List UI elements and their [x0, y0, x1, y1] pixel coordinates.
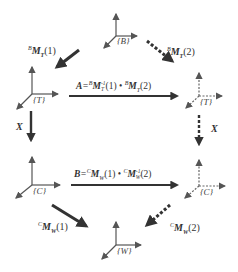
frame-t-solid-label: {T} — [33, 96, 45, 105]
label-bmt1: BMT(1) — [28, 45, 56, 58]
eq-b-t1-base: M — [91, 169, 99, 179]
eq-b-t2-base: M — [127, 169, 135, 179]
equation-a: A=BM-1T(1) • BMT(2) — [76, 80, 151, 93]
eq-a-t1-base: M — [92, 81, 100, 91]
label-cmw2: CMW(2) — [170, 222, 200, 235]
frame-w-label: {W} — [117, 247, 132, 256]
cmw2-base: M — [174, 222, 183, 233]
label-x-right: X — [211, 124, 218, 134]
bmt2-base: M — [171, 46, 180, 57]
eq-a-dot: • — [119, 81, 122, 91]
arrow-bmt1 — [57, 50, 79, 67]
eq-a-t2-arg: (2) — [140, 81, 151, 91]
frame-t-dotted-label: {T} — [200, 98, 212, 107]
frame-c-dotted-label: {C} — [200, 188, 213, 197]
bmt1-arg: (1) — [44, 45, 56, 56]
eq-b-dot: • — [118, 169, 121, 179]
cmw1-arg: (1) — [56, 221, 68, 232]
label-cmw1: CMW(1) — [38, 221, 68, 234]
cmw1-base: M — [42, 221, 51, 232]
bmt1-base: M — [32, 45, 41, 56]
equation-b: B=CMW(1) • CM-1W(2) — [74, 168, 152, 181]
cmw2-arg: (2) — [188, 222, 200, 233]
eq-b-t1-arg: (1) — [104, 169, 115, 179]
frame-b-label: {B} — [117, 37, 130, 46]
eq-b-t2-arg: (2) — [140, 169, 151, 179]
label-x-left: X — [16, 122, 23, 132]
bmt2-arg: (2) — [183, 46, 195, 57]
label-bmt2: BMT(2) — [167, 46, 195, 59]
frame-c-solid-label: {C} — [33, 187, 46, 196]
eq-a-t1-arg: (1) — [105, 81, 116, 91]
eq-a-t2-base: M — [128, 81, 136, 91]
arrow-cmw2 — [147, 205, 170, 225]
